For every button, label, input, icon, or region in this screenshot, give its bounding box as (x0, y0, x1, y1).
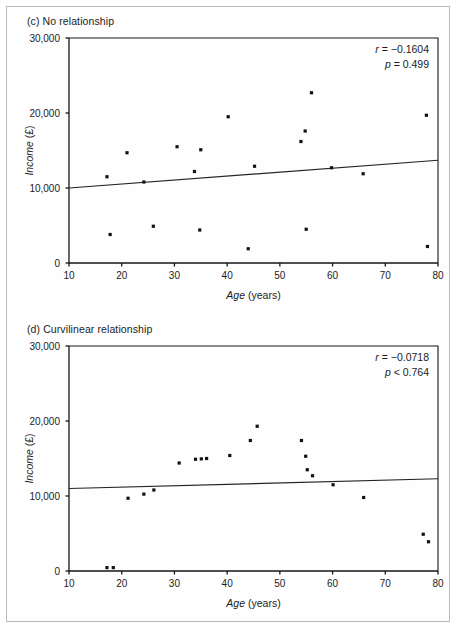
x-tick-label: 40 (222, 578, 234, 589)
y-tick-label: 0 (54, 258, 60, 269)
data-point (425, 114, 428, 117)
y-axis-title: Income (£) (23, 433, 35, 483)
x-tick-label: 30 (169, 578, 181, 589)
y-tick-label: 30,000 (29, 341, 60, 352)
data-point (178, 461, 181, 464)
x-axis-title-emphasis: Age (225, 289, 245, 301)
data-point (112, 566, 115, 569)
stat-r-value: = −0.1604 (379, 43, 429, 55)
x-axis-title-rest: (years) (245, 597, 281, 609)
x-tick-label: 80 (432, 578, 444, 589)
data-point (200, 457, 203, 460)
x-axis-title-rest: (years) (245, 289, 281, 301)
scatter-plot-c: 010,00020,00030,0001020304050607080Age (… (7, 7, 451, 315)
y-axis-title-rest: (£) (23, 433, 35, 449)
data-point (199, 148, 202, 151)
data-point (227, 115, 230, 118)
x-tick-label: 10 (63, 270, 75, 281)
x-axis-title: Age (years) (225, 289, 280, 301)
data-point (304, 455, 307, 458)
x-tick-label: 80 (432, 270, 444, 281)
data-point (427, 540, 430, 543)
x-tick-label: 60 (327, 578, 339, 589)
data-point (152, 488, 155, 491)
x-tick-label: 50 (274, 270, 286, 281)
data-point (305, 228, 308, 231)
stat-r-value: = −0.0718 (379, 351, 429, 363)
data-point (247, 247, 250, 250)
data-point (105, 566, 108, 569)
plot-axes (69, 38, 438, 263)
data-point (311, 474, 314, 477)
x-tick-label: 10 (63, 578, 75, 589)
data-point (304, 129, 307, 132)
data-point (306, 468, 309, 471)
x-tick-label: 70 (380, 578, 392, 589)
data-point (126, 497, 129, 500)
data-point (175, 145, 178, 148)
data-point (256, 425, 259, 428)
y-axis-title-emphasis: Income (23, 449, 35, 484)
stat-p-annotation: p < 0.764 (384, 366, 429, 378)
regression-line (69, 479, 438, 489)
data-point (193, 170, 196, 173)
regression-line (69, 160, 438, 188)
data-point (125, 151, 128, 154)
data-point (253, 165, 256, 168)
data-point (228, 454, 231, 457)
x-tick-label: 30 (169, 270, 181, 281)
data-point (299, 140, 302, 143)
plot-frame (69, 38, 438, 263)
data-point (310, 91, 313, 94)
x-axis-title: Age (years) (225, 597, 280, 609)
x-tick-label: 70 (380, 270, 392, 281)
y-tick-label: 10,000 (29, 183, 60, 194)
data-point (194, 458, 197, 461)
data-point (205, 457, 208, 460)
data-point (426, 245, 429, 248)
data-point (362, 496, 365, 499)
x-tick-label: 20 (116, 270, 128, 281)
stat-r-annotation: r = −0.1604 (375, 43, 429, 55)
y-tick-label: 30,000 (29, 33, 60, 44)
data-point (142, 493, 145, 496)
plot-frame (69, 346, 438, 571)
scatter-plot-d: 010,00020,00030,0001020304050607080Age (… (7, 315, 451, 623)
stat-p-value: < 0.764 (391, 366, 429, 378)
data-point (152, 225, 155, 228)
y-tick-label: 0 (54, 566, 60, 577)
stat-p-value: = 0.499 (391, 58, 429, 70)
data-point (105, 175, 108, 178)
plot-axes (69, 346, 438, 571)
y-axis-title-rest: (£) (23, 125, 35, 141)
stat-r-annotation: r = −0.0718 (375, 351, 429, 363)
data-point (198, 228, 201, 231)
y-tick-label: 20,000 (29, 108, 60, 119)
chart-panel-d: (d) Curvilinear relationship 010,00020,0… (7, 315, 451, 623)
y-tick-label: 20,000 (29, 416, 60, 427)
x-tick-label: 60 (327, 270, 339, 281)
data-point (249, 439, 252, 442)
x-tick-label: 50 (274, 578, 286, 589)
chart-panel-c: (c) No relationship 010,00020,00030,0001… (7, 7, 451, 315)
y-axis-title-emphasis: Income (23, 141, 35, 176)
data-point (332, 483, 335, 486)
data-point (362, 172, 365, 175)
y-axis-title: Income (£) (23, 125, 35, 175)
data-point (300, 439, 303, 442)
data-point (142, 180, 145, 183)
figure-frame: (c) No relationship 010,00020,00030,0001… (6, 6, 450, 622)
x-axis-title-emphasis: Age (225, 597, 245, 609)
y-tick-label: 10,000 (29, 491, 60, 502)
stat-p-annotation: p = 0.499 (384, 58, 429, 70)
data-point (422, 533, 425, 536)
x-tick-label: 40 (222, 270, 234, 281)
x-tick-label: 20 (116, 578, 128, 589)
data-point (109, 233, 112, 236)
data-point (330, 166, 333, 169)
